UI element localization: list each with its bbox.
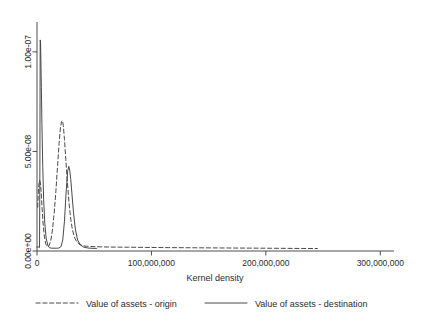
series-line-destination <box>40 40 97 248</box>
x-axis-ticks <box>37 251 380 256</box>
axes <box>37 22 394 251</box>
legend-label-origin: Value of assets - origin <box>86 299 177 309</box>
x-tick-label-1: 100,000,000 <box>128 258 176 268</box>
series-line-origin <box>38 121 318 249</box>
x-axis-title: Kernel density <box>186 273 244 283</box>
x-tick-label-3: 300,000,000 <box>357 258 405 268</box>
y-tick-label-2: 1.00e-07 <box>23 35 33 69</box>
x-tick-label-0: 0 <box>35 258 40 268</box>
chart-legend: Value of assets - origin Value of assets… <box>36 299 367 309</box>
x-tick-label-2: 200,000,000 <box>242 258 290 268</box>
data-series-group <box>37 40 317 249</box>
kernel-density-chart: 0100,000,000200,000,000300,000,000 0.00e… <box>0 0 430 319</box>
y-tick-label-0: 0.00e+00 <box>23 233 33 269</box>
y-tick-label-1: 5.00e-08 <box>23 134 33 168</box>
y-axis-tick-labels: 0.00e+005.00e-081.00e-07 <box>23 35 33 269</box>
legend-label-destination: Value of assets - destination <box>255 299 367 309</box>
x-axis-tick-labels: 0100,000,000200,000,000300,000,000 <box>35 258 405 268</box>
